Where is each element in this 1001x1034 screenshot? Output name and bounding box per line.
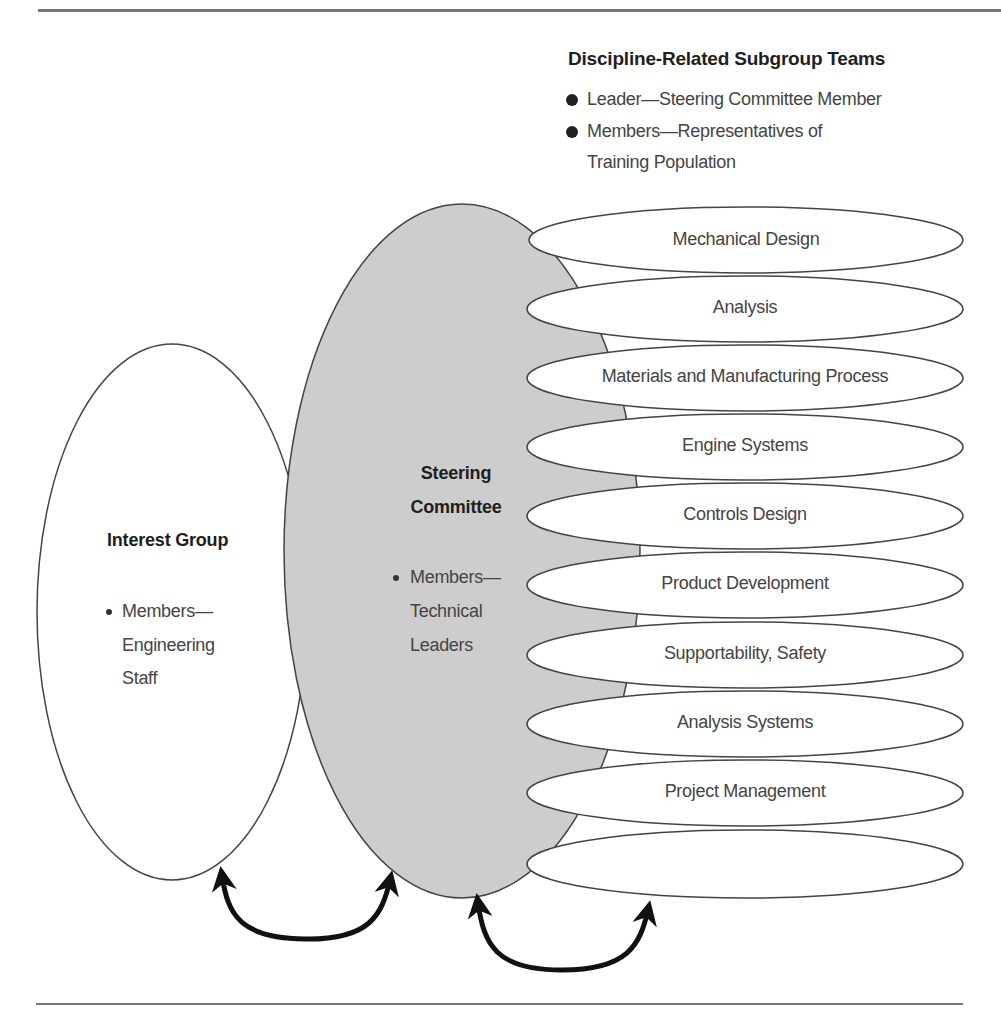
subgroup-heading: Discipline-Related Subgroup Teams (568, 48, 885, 70)
team-ellipse (527, 830, 963, 898)
steering-members: Members— (410, 567, 501, 588)
team-label: Analysis (527, 297, 963, 318)
team-label: Engine Systems (527, 435, 963, 456)
team-label: Product Development (527, 573, 963, 594)
bullet-icon (106, 609, 112, 615)
team-label: Materials and Manufacturing Process (527, 366, 963, 387)
steering-title-line2: Committee (356, 497, 556, 518)
team-label: Mechanical Design (528, 229, 964, 250)
team-label: Controls Design (527, 504, 963, 525)
subgroup-members-text: Members—Representatives of (587, 121, 822, 142)
team-label: Analysis Systems (527, 712, 963, 733)
interest-group-members: Members— (122, 601, 213, 622)
bullet-icon (393, 575, 399, 581)
interest-group-members-2: Engineering (122, 635, 215, 656)
interest-group-title: Interest Group (107, 530, 228, 551)
team-label: Supportability, Safety (527, 643, 963, 664)
bullet-icon (566, 126, 578, 138)
arrow-interest-steering (222, 876, 390, 939)
subgroup-members-text-2: Training Population (587, 152, 736, 173)
bullet-icon (566, 94, 578, 106)
interest-group-members-3: Staff (122, 668, 157, 689)
steering-title-line1: Steering (356, 463, 556, 484)
team-label: Project Management (527, 781, 963, 802)
arrow-steering-teams (478, 903, 648, 970)
steering-members-2: Technical (410, 601, 482, 622)
subgroup-leader-text: Leader—Steering Committee Member (587, 89, 882, 110)
steering-members-3: Leaders (410, 635, 473, 656)
